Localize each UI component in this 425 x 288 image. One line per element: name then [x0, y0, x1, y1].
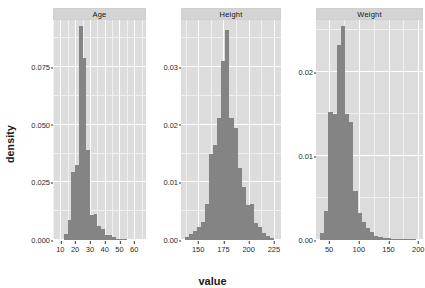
gridline-horizontal [53, 66, 146, 67]
x-axis-weight: 50100150200 [316, 240, 423, 262]
x-tick-label: 50 [325, 245, 333, 254]
facet-panel-age: 0.0000.0250.0500.075 Age 102030405060 [18, 8, 146, 262]
histogram-facet-plot: density 0.0000.0250.0500.075 Age 1020304… [0, 0, 425, 288]
gridline-horizontal [53, 37, 146, 38]
gridline-vertical [112, 20, 113, 240]
gridline-vertical [142, 20, 143, 240]
y-tick-label: 0.02 [163, 120, 178, 129]
strip-label-weight: Weight [357, 10, 381, 19]
gridline-vertical [418, 20, 419, 240]
y-tick-label: 0.050 [31, 120, 50, 129]
x-axis-age: 102030405060 [53, 240, 146, 262]
gridline-vertical [374, 20, 375, 240]
x-tick-label: 20 [71, 245, 79, 254]
x-tick-label: 50 [115, 245, 123, 254]
gridline-horizontal [53, 124, 146, 125]
y-tick-label: 0.025 [31, 178, 50, 187]
y-axis-title-text: density [4, 125, 16, 163]
gridline-vertical [186, 20, 187, 240]
x-axis-title: value [0, 275, 425, 287]
gridline-horizontal [181, 37, 281, 38]
plot-panel-height [181, 20, 281, 240]
y-tick-label: 0.02 [298, 68, 313, 77]
plot-panel-age [53, 20, 146, 240]
y-axis-weight: 0.000.010.02 [281, 20, 316, 240]
gridline-vertical [389, 20, 390, 240]
x-axis-title-text: value [198, 275, 226, 287]
gridline-horizontal [181, 95, 281, 96]
facet-panel-height: 0.000.010.020.03 Height 150175200225 [146, 8, 281, 262]
gridline-vertical [198, 20, 199, 240]
gridline-horizontal [181, 66, 281, 67]
gridline-horizontal [53, 153, 146, 154]
gridline-vertical [274, 20, 275, 240]
gridline-vertical [90, 20, 91, 240]
x-tick-label: 150 [192, 245, 205, 254]
gridline-vertical [60, 20, 61, 240]
strip-label-age: Age [93, 10, 107, 19]
strip-label-height: Height [220, 10, 243, 19]
x-tick-label: 30 [86, 245, 94, 254]
gridline-vertical [68, 20, 69, 240]
y-tick-label: 0.00 [163, 236, 178, 245]
strip-weight: Weight [316, 8, 423, 20]
gridline-vertical [119, 20, 120, 240]
x-tick-label: 40 [100, 245, 108, 254]
strip-age: Age [53, 8, 146, 20]
y-tick-label: 0.01 [163, 178, 178, 187]
x-axis-height: 150175200225 [181, 240, 281, 262]
y-axis-title: density [2, 0, 18, 288]
y-tick-label: 0.00 [298, 236, 313, 245]
y-tick-label: 0.000 [31, 236, 50, 245]
gridline-vertical [105, 20, 106, 240]
x-tick-label: 175 [217, 245, 230, 254]
y-axis-age: 0.0000.0250.0500.075 [18, 20, 53, 240]
gridline-horizontal [53, 210, 146, 211]
x-tick-label: 200 [412, 245, 425, 254]
facet-row: 0.0000.0250.0500.075 Age 102030405060 0.… [18, 8, 423, 262]
x-tick-label: 200 [242, 245, 255, 254]
gridline-vertical [359, 20, 360, 240]
gridline-vertical [53, 20, 54, 240]
x-tick-label: 225 [268, 245, 281, 254]
plot-panel-weight [316, 20, 423, 240]
gridline-horizontal [53, 95, 146, 96]
y-tick-label: 0.075 [31, 63, 50, 72]
gridline-vertical [97, 20, 98, 240]
facet-panel-weight: 0.000.010.02 Weight 50100150200 [281, 8, 423, 262]
gridline-vertical [134, 20, 135, 240]
x-tick-label: 100 [353, 245, 366, 254]
gridline-horizontal [53, 181, 146, 182]
strip-height: Height [181, 8, 281, 20]
x-tick-label: 150 [382, 245, 395, 254]
gridline-vertical [127, 20, 128, 240]
y-tick-label: 0.03 [163, 63, 178, 72]
y-tick-label: 0.01 [298, 152, 313, 161]
x-tick-label: 10 [56, 245, 64, 254]
gridline-horizontal [316, 29, 423, 30]
gridline-vertical [261, 20, 262, 240]
x-tick-label: 60 [130, 245, 138, 254]
gridline-horizontal [316, 71, 423, 72]
gridline-vertical [403, 20, 404, 240]
y-axis-height: 0.000.010.020.03 [146, 20, 181, 240]
